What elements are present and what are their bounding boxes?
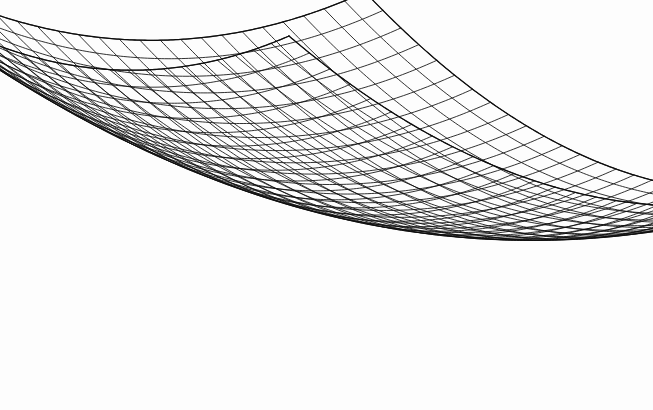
wireframe-mesh-plot — [0, 0, 653, 410]
figure-container: Wireframe mesh surface plot Black-and-wh… — [0, 0, 653, 410]
